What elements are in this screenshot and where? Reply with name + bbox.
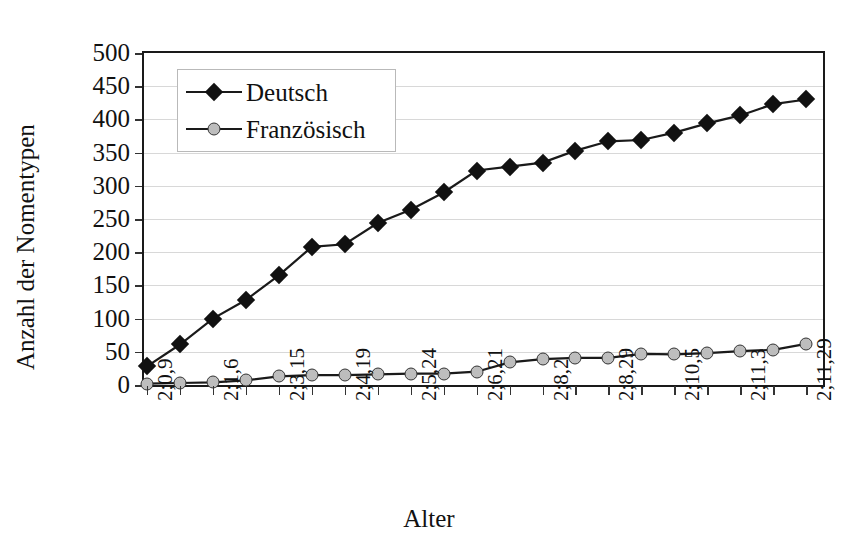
x-tick-mark xyxy=(510,386,511,395)
x-tick-label: 2;8,2 xyxy=(551,358,572,401)
y-tick-label: 200 xyxy=(55,239,130,264)
x-tick-label: 2;3,15 xyxy=(287,348,308,401)
y-tick-label: 450 xyxy=(55,73,130,98)
legend-item-deutsch: Deutsch xyxy=(186,75,328,109)
x-tick-label: 2;11,29 xyxy=(814,338,835,401)
legend-swatch-diamond xyxy=(186,81,242,103)
y-tick-label: 250 xyxy=(55,206,130,231)
legend: Deutsch Französisch xyxy=(177,69,396,152)
chart-root: Anzahl der Nomentypen 050100150200250300… xyxy=(0,0,858,555)
x-tick-label: 2;4,19 xyxy=(353,348,374,401)
legend-swatch-circle xyxy=(186,118,242,140)
circle-data-point xyxy=(536,353,549,366)
x-tick-mark xyxy=(674,386,675,395)
circle-data-point xyxy=(272,370,285,383)
x-tick-mark xyxy=(575,386,576,395)
y-tick-label: 350 xyxy=(55,140,130,165)
x-tick-mark xyxy=(411,386,412,395)
legend-label-franzoesisch: Französisch xyxy=(242,117,365,142)
circle-marker-icon xyxy=(208,123,221,136)
x-tick-mark xyxy=(740,386,741,395)
x-tick-mark xyxy=(641,386,642,395)
y-tick-label: 300 xyxy=(55,173,130,198)
y-tick-label: 50 xyxy=(55,339,130,364)
y-axis-title: Anzahl der Nomentypen xyxy=(12,124,40,370)
x-tick-mark xyxy=(806,386,807,395)
x-tick-mark xyxy=(312,386,313,395)
legend-label-deutsch: Deutsch xyxy=(242,80,328,105)
circle-data-point xyxy=(404,367,417,380)
x-tick-label: 2;10,5 xyxy=(682,348,703,401)
x-tick-mark xyxy=(246,386,247,395)
x-tick-label: 2;11,3 xyxy=(748,349,769,401)
x-tick-label: 2;8,29 xyxy=(616,348,637,401)
x-tick-mark xyxy=(477,386,478,395)
y-tick-label: 400 xyxy=(55,106,130,131)
x-tick-mark xyxy=(147,386,148,395)
x-tick-mark xyxy=(378,386,379,395)
y-tick-label: 100 xyxy=(55,306,130,331)
y-tick-label: 150 xyxy=(55,272,130,297)
x-tick-mark xyxy=(543,386,544,395)
circle-data-point xyxy=(734,345,747,358)
x-tick-mark xyxy=(345,386,346,395)
x-tick-mark xyxy=(279,386,280,395)
x-tick-mark xyxy=(707,386,708,395)
circle-data-point xyxy=(470,365,483,378)
x-tick-mark xyxy=(213,386,214,395)
diamond-marker-icon xyxy=(205,83,223,101)
circle-data-point xyxy=(602,351,615,364)
plot-area: Deutsch Französisch xyxy=(142,51,825,387)
circle-data-point xyxy=(338,369,351,382)
x-tick-mark xyxy=(773,386,774,395)
circle-data-point xyxy=(800,337,813,350)
legend-item-franzoesisch: Französisch xyxy=(186,112,365,146)
x-axis-title: Alter xyxy=(0,505,858,533)
x-tick-label: 2;1,6 xyxy=(221,358,242,401)
x-tick-label: 2;0,9 xyxy=(155,358,176,401)
x-tick-label: 2;6,21 xyxy=(485,348,506,401)
circle-data-point xyxy=(668,348,681,361)
x-tick-label: 2;5,24 xyxy=(419,348,440,401)
x-tick-mark xyxy=(180,386,181,395)
x-tick-mark xyxy=(608,386,609,395)
x-tick-mark xyxy=(444,386,445,395)
y-tick-label: 500 xyxy=(55,40,130,65)
y-tick-label: 0 xyxy=(55,372,130,397)
